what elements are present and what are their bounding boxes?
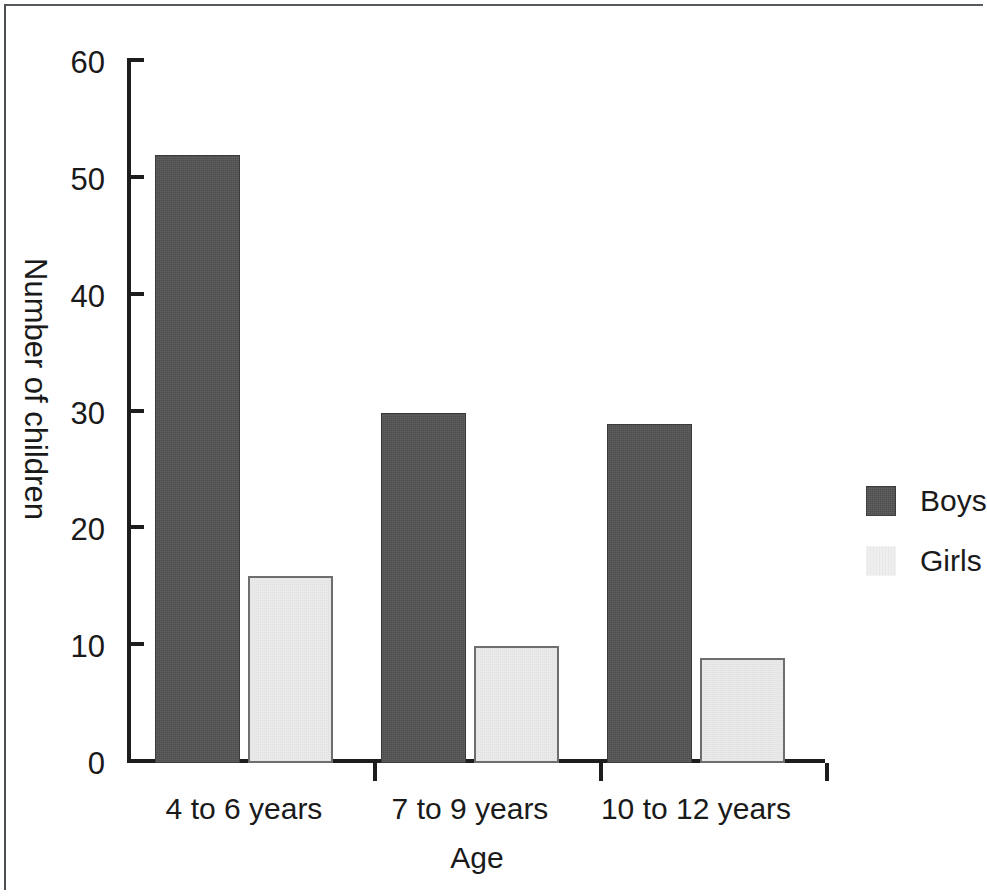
y-axis-tick-30: 30 xyxy=(127,409,144,413)
y-axis-tick-0: 0 xyxy=(127,759,144,763)
y-axis-line xyxy=(127,62,131,763)
legend-swatch-girls xyxy=(866,546,896,576)
y-axis-tick-50: 50 xyxy=(127,175,144,179)
figure-frame-left-rule xyxy=(4,4,6,890)
x-axis-category-label-3: 10 to 12 years xyxy=(601,794,791,824)
bar-girls-1 xyxy=(248,576,333,763)
legend-label-boys: Boys xyxy=(920,486,987,516)
bar-chart-figure: Number of children 0102030405060 4 to 6 … xyxy=(0,0,987,896)
bar-girls-3 xyxy=(700,658,785,763)
bar-boys-1 xyxy=(155,155,240,763)
x-axis-category-label-2: 7 to 9 years xyxy=(392,794,549,824)
bar-boys-2 xyxy=(381,413,466,764)
y-axis-tick-10: 10 xyxy=(127,642,144,646)
bar-boys-3 xyxy=(607,424,692,763)
x-axis-tick-1 xyxy=(373,763,377,781)
x-axis-category-label-1: 4 to 6 years xyxy=(166,794,323,824)
x-axis-title: Age xyxy=(450,843,503,873)
y-axis-tick-label: 30 xyxy=(71,397,105,428)
legend-swatch-boys xyxy=(866,486,896,516)
figure-frame-top-rule xyxy=(4,4,983,6)
y-axis-tick-label: 10 xyxy=(71,631,105,662)
legend-label-girls: Girls xyxy=(920,546,982,576)
y-axis-tick-label: 0 xyxy=(88,748,105,779)
legend-item-boys: Boys xyxy=(866,478,987,523)
chart-legend: BoysGirls xyxy=(866,478,987,598)
y-axis-tick-40: 40 xyxy=(127,292,144,296)
y-axis-tick-label: 40 xyxy=(71,280,105,311)
y-axis-tick-label: 20 xyxy=(71,514,105,545)
legend-item-girls: Girls xyxy=(866,538,987,583)
y-axis-title: Number of children xyxy=(20,258,51,588)
x-axis-tick-2 xyxy=(599,763,603,781)
plot-area: 0102030405060 xyxy=(127,62,825,763)
y-axis-tick-label: 50 xyxy=(71,163,105,194)
bar-girls-2 xyxy=(474,646,559,763)
x-axis-tick-3 xyxy=(825,763,829,781)
y-axis-tick-20: 20 xyxy=(127,525,144,529)
y-axis-tick-label: 60 xyxy=(71,47,105,78)
y-axis-tick-60: 60 xyxy=(127,58,144,62)
